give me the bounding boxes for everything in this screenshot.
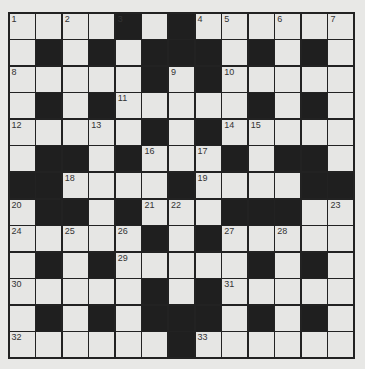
grid-cell[interactable] <box>169 253 194 278</box>
grid-cell[interactable] <box>328 93 353 118</box>
grid-cell[interactable] <box>36 226 61 251</box>
grid-cell[interactable]: 10 <box>222 67 247 92</box>
grid-cell[interactable] <box>89 226 114 251</box>
grid-cell[interactable]: 14 <box>222 120 247 145</box>
grid-cell[interactable] <box>116 332 141 357</box>
grid-cell[interactable]: 5 <box>222 14 247 39</box>
grid-cell[interactable] <box>10 93 35 118</box>
grid-cell[interactable]: 21 <box>142 200 167 225</box>
grid-cell[interactable]: 27 <box>222 226 247 251</box>
grid-cell[interactable] <box>63 40 88 65</box>
grid-cell[interactable] <box>89 146 114 171</box>
grid-cell[interactable] <box>249 146 274 171</box>
grid-cell[interactable] <box>249 67 274 92</box>
grid-cell[interactable] <box>169 93 194 118</box>
grid-cell[interactable] <box>249 173 274 198</box>
grid-cell[interactable] <box>275 332 300 357</box>
grid-cell[interactable] <box>116 279 141 304</box>
grid-cell[interactable] <box>10 40 35 65</box>
grid-cell[interactable] <box>302 14 327 39</box>
grid-cell[interactable] <box>196 93 221 118</box>
grid-cell[interactable] <box>89 279 114 304</box>
grid-cell[interactable] <box>116 40 141 65</box>
grid-cell[interactable] <box>89 200 114 225</box>
grid-cell[interactable] <box>275 173 300 198</box>
grid-cell[interactable] <box>169 226 194 251</box>
grid-cell[interactable] <box>63 253 88 278</box>
grid-cell[interactable] <box>328 253 353 278</box>
grid-cell[interactable] <box>63 67 88 92</box>
grid-cell[interactable]: 8 <box>10 67 35 92</box>
grid-cell[interactable] <box>36 120 61 145</box>
grid-cell[interactable] <box>275 120 300 145</box>
grid-cell[interactable] <box>328 279 353 304</box>
grid-cell[interactable] <box>222 93 247 118</box>
grid-cell[interactable] <box>36 67 61 92</box>
grid-cell[interactable] <box>36 14 61 39</box>
grid-cell[interactable]: 33 <box>196 332 221 357</box>
grid-cell[interactable] <box>196 200 221 225</box>
grid-cell[interactable] <box>116 120 141 145</box>
grid-cell[interactable] <box>302 226 327 251</box>
grid-cell[interactable] <box>275 253 300 278</box>
grid-cell[interactable] <box>249 279 274 304</box>
grid-cell[interactable] <box>275 279 300 304</box>
grid-cell[interactable] <box>63 306 88 331</box>
grid-cell[interactable] <box>222 332 247 357</box>
grid-cell[interactable] <box>169 279 194 304</box>
grid-cell[interactable] <box>275 93 300 118</box>
grid-cell[interactable] <box>328 306 353 331</box>
grid-cell[interactable] <box>142 93 167 118</box>
grid-cell[interactable] <box>249 14 274 39</box>
grid-cell[interactable]: 23 <box>328 200 353 225</box>
grid-cell[interactable]: 28 <box>275 226 300 251</box>
grid-cell[interactable] <box>302 332 327 357</box>
grid-cell[interactable] <box>116 306 141 331</box>
grid-cell[interactable] <box>63 120 88 145</box>
grid-cell[interactable] <box>302 67 327 92</box>
grid-cell[interactable] <box>142 173 167 198</box>
grid-cell[interactable] <box>222 40 247 65</box>
grid-cell[interactable]: 24 <box>10 226 35 251</box>
grid-cell[interactable]: 13 <box>89 120 114 145</box>
grid-cell[interactable] <box>169 120 194 145</box>
grid-cell[interactable]: 22 <box>169 200 194 225</box>
grid-cell[interactable] <box>222 253 247 278</box>
grid-cell[interactable] <box>222 306 247 331</box>
grid-cell[interactable]: 7 <box>328 14 353 39</box>
grid-cell[interactable] <box>222 173 247 198</box>
grid-cell[interactable] <box>36 279 61 304</box>
grid-cell[interactable] <box>89 332 114 357</box>
grid-cell[interactable] <box>116 173 141 198</box>
grid-cell[interactable] <box>328 332 353 357</box>
grid-cell[interactable]: 26 <box>116 226 141 251</box>
grid-cell[interactable] <box>302 200 327 225</box>
grid-cell[interactable] <box>10 253 35 278</box>
grid-cell[interactable]: 16 <box>142 146 167 171</box>
grid-cell[interactable] <box>328 40 353 65</box>
grid-cell[interactable] <box>116 67 141 92</box>
grid-cell[interactable]: 9 <box>169 67 194 92</box>
grid-cell[interactable] <box>142 253 167 278</box>
grid-cell[interactable] <box>142 332 167 357</box>
grid-cell[interactable] <box>142 14 167 39</box>
grid-cell[interactable] <box>63 279 88 304</box>
grid-cell[interactable]: 4 <box>196 14 221 39</box>
grid-cell[interactable] <box>36 332 61 357</box>
grid-cell[interactable] <box>249 226 274 251</box>
grid-cell[interactable] <box>10 146 35 171</box>
grid-cell[interactable] <box>10 306 35 331</box>
grid-cell[interactable]: 1 <box>10 14 35 39</box>
grid-cell[interactable] <box>63 332 88 357</box>
grid-cell[interactable] <box>89 14 114 39</box>
grid-cell[interactable]: 12 <box>10 120 35 145</box>
grid-cell[interactable]: 18 <box>63 173 88 198</box>
grid-cell[interactable]: 32 <box>10 332 35 357</box>
grid-cell[interactable] <box>89 173 114 198</box>
grid-cell[interactable] <box>275 67 300 92</box>
grid-cell[interactable] <box>302 120 327 145</box>
grid-cell[interactable]: 30 <box>10 279 35 304</box>
grid-cell[interactable]: 11 <box>116 93 141 118</box>
grid-cell[interactable]: 25 <box>63 226 88 251</box>
grid-cell[interactable]: 19 <box>196 173 221 198</box>
